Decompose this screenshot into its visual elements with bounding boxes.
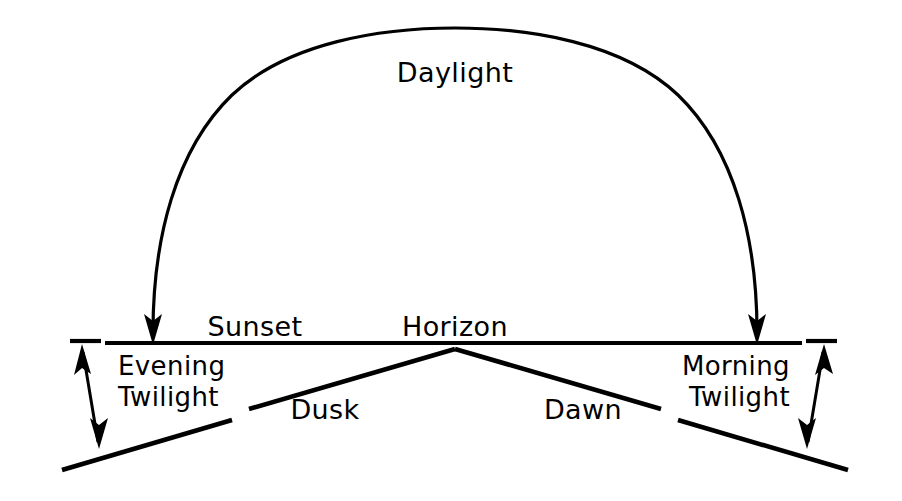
diagram-canvas: Daylight Sunset Horizon Evening Twilight…	[0, 0, 902, 501]
dusk-label: Dusk	[290, 394, 359, 425]
morning-twilight-label-line1: Morning	[682, 351, 790, 381]
evening-twilight-label-line1: Evening	[118, 351, 225, 381]
morning-span-up-arrowhead	[815, 344, 833, 375]
evening-twilight-span-arrow-icon	[70, 341, 108, 449]
morning-twilight-span-arrow-icon	[798, 341, 837, 449]
daylight-label: Daylight	[397, 57, 513, 88]
dusk-line-lower-segment	[62, 420, 232, 470]
morning-span-down-arrowhead	[798, 418, 816, 449]
evening-twilight-label-line2: Twilight	[117, 382, 219, 412]
dawn-label: Dawn	[544, 394, 622, 425]
morning-twilight-label-line2: Twilight	[688, 382, 790, 412]
dawn-line-lower-segment	[678, 420, 848, 470]
evening-span-up-arrowhead	[74, 344, 91, 375]
twilight-diagram: Daylight Sunset Horizon Evening Twilight…	[0, 0, 902, 501]
sunset-label: Sunset	[207, 311, 302, 342]
horizon-label: Horizon	[402, 311, 508, 342]
evening-span-down-arrowhead	[90, 418, 108, 449]
